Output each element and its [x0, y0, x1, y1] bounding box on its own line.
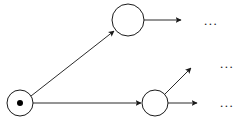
edge-lower-out-diagonal: [164, 68, 191, 95]
ellipsis-top: ...: [204, 14, 218, 27]
node-root[interactable]: [7, 90, 33, 116]
node-group: [7, 4, 168, 116]
edge-group: [31, 20, 197, 103]
node-lower-circle[interactable]: [142, 90, 168, 116]
ellipsis-middle: ...: [220, 57, 234, 70]
token-dot: [17, 100, 23, 106]
node-upper[interactable]: [112, 4, 144, 36]
node-lower[interactable]: [142, 90, 168, 116]
node-upper-circle[interactable]: [112, 4, 144, 36]
ellipsis-bottom: ...: [220, 96, 234, 109]
diagram-canvas: ... ... ...: [0, 0, 251, 124]
edge-root-to-upper: [31, 31, 114, 96]
